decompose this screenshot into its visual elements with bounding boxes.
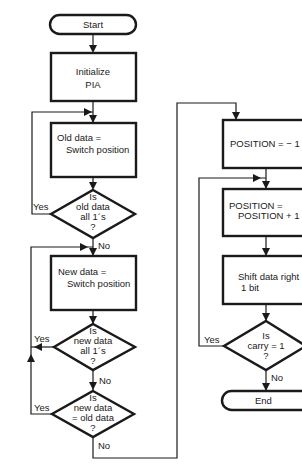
position-increment-box: POSITION = POSITION + 1 [223,189,302,236]
initialize-pia-box: Initialize PIA [51,53,136,101]
decision-carry-equals-one: Is carry = 1 ? [224,321,302,370]
new-data-box: New data = Switch position [51,256,136,310]
svg-text:Old data =: Old data = [57,132,102,143]
position-init-box: POSITION = − 1 [223,120,302,168]
flowchart: Start Initialize PIA Old data = Switch p… [0,0,302,471]
svg-text:New data =: New data = [58,266,107,277]
arrow-up-icon [27,354,35,362]
no-label: No [98,240,110,251]
no-label: No [99,375,111,386]
svg-text:POSITION = − 1: POSITION = − 1 [230,138,300,149]
svg-text:1 bit: 1 bit [241,282,259,293]
svg-text:Initialize: Initialize [76,66,110,77]
svg-text:?: ? [263,350,268,361]
yes-label: Yes [34,402,50,413]
shift-data-box: Shift data right 1 bit [223,256,302,304]
start-terminal: Start [50,15,136,34]
decision-new-equals-old: Is new data = old data ? [52,391,134,437]
end-terminal: End [222,391,302,410]
svg-text:Switch position: Switch position [66,144,129,155]
svg-text:PIA: PIA [85,79,101,90]
svg-text:End: End [255,395,272,406]
svg-text:POSITION + 1: POSITION + 1 [238,210,300,221]
svg-text:?: ? [90,221,95,232]
yes-label: Yes [33,201,49,212]
arrow-right-icon [84,108,92,116]
svg-text:Start: Start [83,19,103,30]
no-label: No [98,440,110,451]
decision-new-data-all-ones: Is new data all 1´s ? [54,324,135,370]
yes-label: Yes [204,334,220,345]
yes-label: Yes [34,333,50,344]
decision-old-data-all-ones: Is old data all 1´s ? [51,190,135,238]
svg-text:?: ? [90,355,95,366]
no-label: No [271,372,283,383]
svg-text:Switch position: Switch position [67,278,130,289]
old-data-box: Old data = Switch position [51,123,136,177]
svg-text:?: ? [90,422,95,433]
arrow-left-icon [34,343,42,351]
arrow-right-icon [80,243,88,251]
arrow-right-icon [253,174,261,182]
svg-text:Shift data right: Shift data right [238,271,300,282]
arrow-down-icon [89,382,97,390]
